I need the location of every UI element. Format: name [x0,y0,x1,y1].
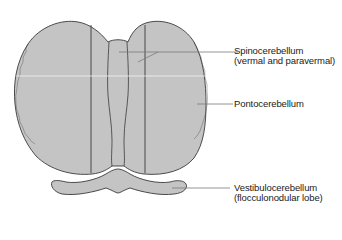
spinocerebellum-label: Spinocerebellum (vermal and paravermal) [234,46,335,66]
cerebellum-body [14,21,206,174]
pontocerebellum-label-title: Pontocerebellum [234,99,304,109]
spinocerebellum-label-subtitle: (vermal and paravermal) [234,56,335,66]
vestibulocerebellum-label-subtitle: (flocculonodular lobe) [234,193,323,203]
vestibulocerebellum-label: Vestibulocerebellum (flocculonodular lob… [234,183,323,203]
pontocerebellum-label: Pontocerebellum [234,99,304,109]
